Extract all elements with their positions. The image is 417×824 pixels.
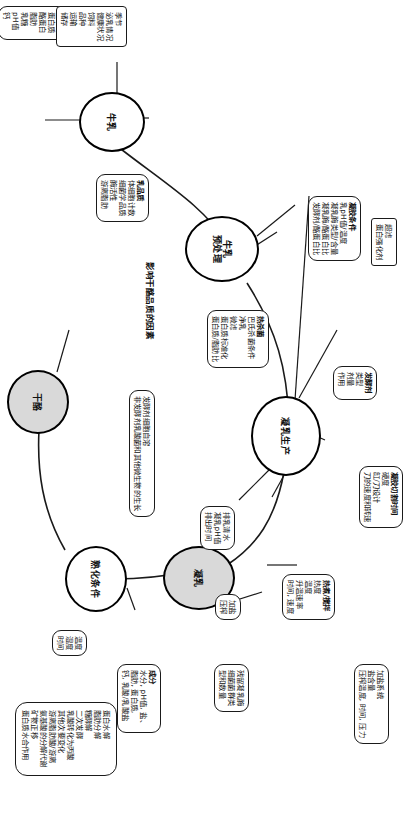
line: 类型 xyxy=(355,372,364,394)
line: 游离脂肪酸/游离 xyxy=(48,710,57,768)
line: 压榨温度, 时间, 压力 xyxy=(358,670,367,738)
line: 刀的速度和转速 xyxy=(363,472,372,522)
line: 乳糖 xyxy=(20,12,29,34)
hub-ripening-conditions[interactable]: 熟化条件 xyxy=(65,546,127,612)
line: 发酵剂细胞自溶 xyxy=(142,396,151,511)
line: 排乳清水 xyxy=(222,512,231,544)
hub-curd-production-label: 凝乳生产 xyxy=(280,417,293,455)
node-starter-culture-head: 发酵剂 xyxy=(364,372,373,394)
line: 细菌学品质 xyxy=(118,180,127,216)
line: 季节 xyxy=(114,12,123,41)
hub-curd-label: 凝乳 xyxy=(193,569,206,588)
line: 蛋白质 xyxy=(47,12,56,34)
line: 型和数量 xyxy=(218,670,227,706)
line: 加盐 xyxy=(228,600,237,614)
line: 酶活性 xyxy=(109,180,118,216)
line: 脂肪, 蛋白质, xyxy=(130,670,139,727)
hub-milk[interactable]: 牛乳 xyxy=(79,92,145,152)
hub-ripening-label: 熟化条件 xyxy=(90,560,103,598)
line: 时间, 速度 xyxy=(286,580,295,614)
line: 温度 xyxy=(304,580,313,614)
node-gel-conditions-head: 凝胶条件 xyxy=(348,202,357,255)
line: 氨基酸的分解代谢 xyxy=(39,710,48,768)
line: 压榨 xyxy=(219,600,228,614)
node-temperature-humidity-time[interactable]: 温度 湿度 时间 xyxy=(52,630,87,656)
node-milk-quality[interactable]: 乳品质 体细胞计数 细菌学品质 酶活性 游离脂肪 xyxy=(96,174,149,222)
line: 细菌菌群类 xyxy=(227,670,236,706)
line: 水分, pH值, 盐、 xyxy=(139,670,148,727)
line: 其他次要变化 xyxy=(57,710,66,768)
line: 残留凝乳酶 xyxy=(236,670,245,706)
line: 体细胞计数 xyxy=(127,180,136,216)
hub-curd-production[interactable]: 凝乳生产 xyxy=(251,396,321,476)
line: pH值 xyxy=(11,12,20,34)
hub-milk-label: 牛乳 xyxy=(106,113,119,132)
line: 矿物正移 xyxy=(30,710,39,768)
line: 盐含量 xyxy=(367,670,376,738)
line: 非发酵剂乳酸菌和其他微生物的生长 xyxy=(133,396,142,511)
diagram-title: 影响干酪品质的因素 xyxy=(145,262,157,339)
line: 二次发酵 xyxy=(75,710,84,768)
line: 排出时间 xyxy=(204,512,213,544)
node-gel-cutting-time-head: 凝胶切割时间 xyxy=(390,472,399,522)
line: 脂肪分解 xyxy=(93,710,102,768)
node-milk-source-factors[interactable]: 季节 泌乳情况 健康状况 饲料 品种 运输 储存 xyxy=(56,6,127,47)
line: 时间 xyxy=(56,636,65,650)
line: 加盐系统 xyxy=(376,670,385,738)
node-residual-rennet[interactable]: 残留凝乳酶 细菌菌群类 型和数量 xyxy=(214,664,249,712)
node-cooking-stirring[interactable]: 热煮/搅拌 热度 温度 升温速率 时间, 速度 xyxy=(282,574,335,620)
line: 升温速率 xyxy=(295,580,304,614)
line: 超滤 xyxy=(384,224,393,260)
node-ultrafiltration[interactable]: 超滤 蛋白强化剂 xyxy=(371,218,397,266)
node-salting-system[interactable]: 加盐系统 盐含量 压榨温度, 时间, 压力 xyxy=(354,664,389,744)
node-gel-conditions[interactable]: 凝胶条件 乳pH值/温度 凝乳酶类型/含量 凝乳酶/酪蛋白比 发酵剂/酪蛋白比 xyxy=(308,196,361,261)
line: 储存 xyxy=(60,12,69,41)
hub-cheese[interactable]: 干酪 xyxy=(7,370,69,434)
line: 蛋白质水合作用 xyxy=(21,710,30,768)
line: 运输 xyxy=(69,12,78,41)
hub-pretreatment[interactable]: 牛乳预处理 xyxy=(185,216,259,282)
hub-cheese-label: 干酪 xyxy=(32,393,45,412)
line: 健康状况 xyxy=(96,12,105,41)
line: 蛋白质/脂肪比 xyxy=(211,316,220,362)
line: 发酵剂/酪蛋白比 xyxy=(312,202,321,255)
node-whey-drainage[interactable]: 排乳清水 凝乳pH值 排出时间 xyxy=(200,506,235,550)
line: 钙, 乳酸/乳酸盐 xyxy=(121,670,130,727)
line: 乳pH值/温度 xyxy=(339,202,348,255)
mindmap-canvas: 牛乳 牛乳预处理 凝乳生产 凝乳 熟化条件 干酪 影响干酪品质的因素 乳成分 蛋… xyxy=(0,0,417,824)
line: 凝乳酶/酪蛋白比 xyxy=(321,202,330,255)
node-gel-cutting-time[interactable]: 凝胶切割时间 硬度 缸/刀设计 刀的速度和转速 xyxy=(359,466,403,528)
line: 游离脂肪 xyxy=(100,180,109,216)
node-microbial-growth[interactable]: 发酵剂细胞自溶 非发酵剂乳酸菌和其他微生物的生长 xyxy=(129,390,155,517)
node-heat-treatment[interactable]: 热杀菌 巴氏杀菌条件 净乳 微滤 蛋白质标准化 蛋白质/脂肪比 xyxy=(207,310,269,368)
line: 钙 xyxy=(2,12,11,34)
line: 酪蛋白 xyxy=(38,12,47,34)
line: 剂量 xyxy=(346,372,355,394)
line: 凝乳酶类型/含量 xyxy=(330,202,339,255)
line: 乳酸转化为丙酸 xyxy=(66,710,75,768)
line: 热度 xyxy=(313,580,322,614)
line: 硬度 xyxy=(381,472,390,522)
node-cooking-stirring-head: 热煮/搅拌 xyxy=(322,580,331,614)
node-salting-pressing[interactable]: 加盐 压榨 xyxy=(215,594,241,620)
line: 糖酵解 xyxy=(84,710,93,768)
node-biochemical-changes[interactable]: 蛋白水解 脂肪分解 糖酵解 二次发酵 乳酸转化为丙酸 其他次要变化 游离脂肪酸/… xyxy=(15,702,117,776)
line: 缸/刀设计 xyxy=(372,472,381,522)
line: 温度 xyxy=(74,636,83,650)
line: 蛋白强化剂 xyxy=(375,224,384,260)
line: 蛋白质标准化 xyxy=(220,316,229,362)
line: 湿度 xyxy=(65,636,74,650)
node-starter-culture[interactable]: 发酵剂 类型 剂量 作用 xyxy=(333,366,377,400)
node-composition[interactable]: 成分 水分, pH值, 盐、 脂肪, 蛋白质, 钙, 乳酸/乳酸盐 xyxy=(117,664,161,733)
line: 品种 xyxy=(78,12,87,41)
node-milk-quality-head: 乳品质 xyxy=(136,180,145,216)
line: 凝乳pH值 xyxy=(213,512,222,544)
line: 作用 xyxy=(337,372,346,394)
node-composition-head: 成分 xyxy=(148,670,157,727)
node-heat-treatment-head: 热杀菌 xyxy=(256,316,265,362)
line: 脂肪 xyxy=(29,12,38,34)
line: 净乳 xyxy=(238,316,247,362)
line: 微滤 xyxy=(229,316,238,362)
line: 饲料 xyxy=(87,12,96,41)
line: 蛋白水解 xyxy=(102,710,111,768)
